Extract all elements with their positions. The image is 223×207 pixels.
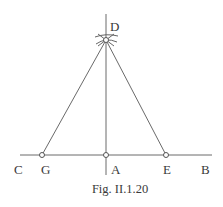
line-de [106,40,166,155]
line-dg [42,40,106,155]
label-a: A [111,162,121,177]
label-e: E [163,162,171,177]
label-d: D [110,19,119,34]
label-g: G [41,162,50,177]
point-e [164,153,169,158]
label-b: B [201,162,210,177]
point-d [104,38,109,43]
point-a [104,153,109,158]
geometry-figure: D C G A E B Fig. II.1.20 [0,0,223,207]
figure-caption: Fig. II.1.20 [92,182,148,196]
label-c: C [14,162,23,177]
point-g [40,153,45,158]
